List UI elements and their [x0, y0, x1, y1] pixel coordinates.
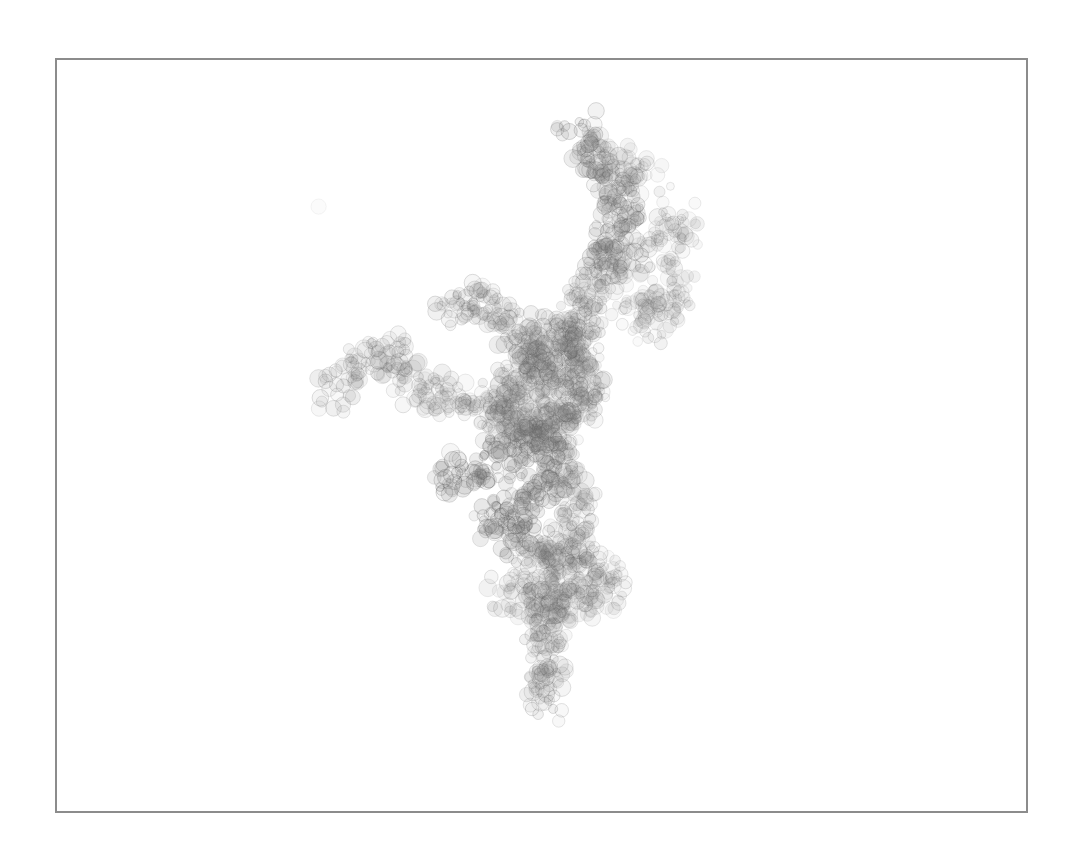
generative-artwork: [0, 0, 1077, 851]
branch-stray: [311, 199, 326, 214]
